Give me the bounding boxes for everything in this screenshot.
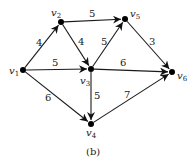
edge-arrow-icon <box>63 25 89 66</box>
edge-v4-v6: 7 <box>94 74 169 122</box>
edge-weight-label: 3 <box>149 36 155 47</box>
figure-caption: (b) <box>86 146 100 157</box>
edges: 4565456537 <box>25 8 169 122</box>
edge-arrow-icon <box>94 69 168 72</box>
vertex-label: v6 <box>177 70 188 83</box>
edge-v3-v4: 5 <box>91 72 100 120</box>
edge-v1-v4: 6 <box>25 72 88 122</box>
vertex-label: v1 <box>9 65 19 78</box>
edge-v2-v3: 4 <box>63 25 89 66</box>
edge-weight-label: 6 <box>45 92 51 103</box>
vertex-dot-icon <box>122 16 128 22</box>
weighted-directed-graph: 4565456537 v1v2v3v4v5v6 <box>0 0 195 167</box>
nodes: v1v2v3v4v5v6 <box>9 7 188 140</box>
edge-arrow-icon <box>64 19 121 22</box>
vertex-label: v5 <box>130 8 140 21</box>
edge-weight-label: 4 <box>36 37 42 48</box>
vertex-label: v2 <box>51 7 61 20</box>
edge-weight-label: 5 <box>94 90 100 101</box>
edge-v3-v5: 5 <box>93 22 123 66</box>
node-v2: v2 <box>51 7 64 25</box>
edge-arrow-icon <box>25 72 88 122</box>
edge-v2-v5: 5 <box>64 8 121 22</box>
edge-v3-v6: 6 <box>94 57 168 72</box>
node-v5: v5 <box>122 8 140 22</box>
vertex-dot-icon <box>88 66 94 72</box>
vertex-label: v3 <box>80 75 90 88</box>
edge-v5-v6: 3 <box>127 21 169 69</box>
edge-weight-label: 5 <box>52 57 58 68</box>
edge-weight-label: 7 <box>124 89 130 100</box>
edge-arrow-icon <box>26 69 87 70</box>
vertex-label: v4 <box>86 127 97 140</box>
edge-weight-label: 4 <box>78 36 84 47</box>
vertex-dot-icon <box>169 69 175 75</box>
node-v4: v4 <box>86 121 97 140</box>
edge-weight-label: 5 <box>101 36 107 47</box>
edge-arrow-icon <box>93 22 123 66</box>
edge-arrow-icon <box>94 74 169 122</box>
node-v1: v1 <box>9 65 26 78</box>
edge-weight-label: 6 <box>120 57 126 68</box>
edge-v1-v3: 5 <box>26 57 87 70</box>
vertex-dot-icon <box>20 67 26 73</box>
node-v6: v6 <box>169 69 188 83</box>
edge-weight-label: 5 <box>89 8 95 19</box>
